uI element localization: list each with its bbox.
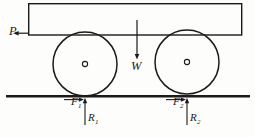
arrowhead-up-icon bbox=[185, 98, 189, 103]
arrowhead-up-icon bbox=[83, 98, 87, 103]
force-label-F1-base: F bbox=[71, 95, 78, 107]
front-wheel-hub-icon bbox=[82, 61, 87, 66]
force-arrow-R2 bbox=[185, 98, 189, 125]
force-label-P: P bbox=[9, 25, 17, 38]
force-label-F2: F2 bbox=[173, 96, 183, 107]
force-label-R1-subscript: 1 bbox=[95, 118, 98, 125]
force-label-R2-subscript: 2 bbox=[197, 118, 200, 125]
force-label-F2-base: F bbox=[173, 95, 180, 107]
force-arrow-R1 bbox=[83, 98, 87, 125]
force-label-R1-base: R bbox=[88, 111, 95, 123]
force-label-F1: F1 bbox=[71, 96, 81, 107]
force-label-R1: R1 bbox=[88, 112, 98, 123]
force-label-R2: R2 bbox=[190, 112, 200, 123]
rear-wheel-hub-icon bbox=[184, 59, 189, 64]
force-label-F1-subscript: 1 bbox=[78, 102, 81, 109]
rear-wheel-circle bbox=[155, 30, 219, 94]
cart-body-rectangle bbox=[29, 4, 242, 35]
force-label-R2-base: R bbox=[190, 111, 197, 123]
diagram-canvas: P W F1 F2 R1 R2 bbox=[0, 0, 255, 137]
free-body-diagram bbox=[0, 0, 255, 137]
force-arrow-W bbox=[135, 20, 140, 59]
force-label-F2-subscript: 2 bbox=[180, 102, 183, 109]
front-wheel-circle bbox=[53, 32, 117, 96]
force-label-W: W bbox=[131, 60, 141, 73]
